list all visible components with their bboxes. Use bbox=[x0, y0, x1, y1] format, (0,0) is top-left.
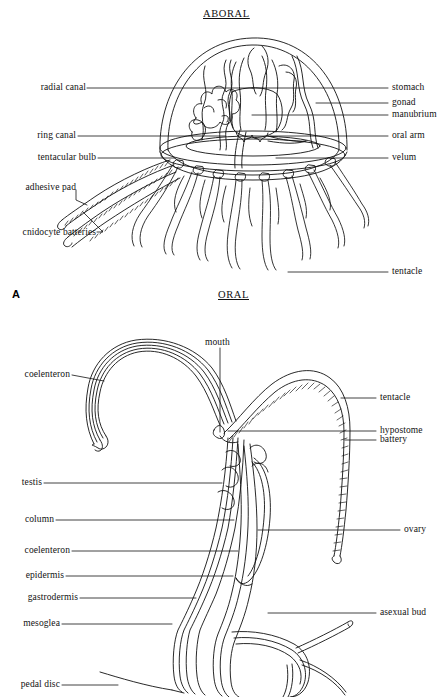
medusa-manubrium bbox=[229, 56, 306, 168]
panelB-leader-lines bbox=[44, 348, 400, 685]
label-battery: battery bbox=[380, 434, 407, 445]
label-epidermis: epidermis bbox=[8, 570, 64, 581]
label-radial-canal: radial canal bbox=[18, 82, 86, 93]
label-testis: testis bbox=[8, 477, 42, 488]
label-oral-arm: oral arm bbox=[392, 130, 425, 141]
label-pedal-disc: pedal disc bbox=[6, 679, 60, 690]
panelA-oral-header: ORAL bbox=[218, 289, 249, 300]
label-tentacle-medusa: tentacle bbox=[392, 266, 422, 277]
label-gonad: gonad bbox=[392, 97, 416, 108]
label-adhesive-pad: adhesive pad bbox=[14, 182, 76, 193]
label-ring-canal: ring canal bbox=[14, 130, 76, 141]
hydra-column bbox=[173, 438, 257, 697]
hydra-asexual-bud bbox=[232, 621, 353, 697]
medusa-bell bbox=[160, 38, 347, 180]
medusa-ring-canal bbox=[161, 139, 345, 171]
figure-root: ABORAL ORAL A radial canal ring canal te… bbox=[0, 0, 444, 697]
label-mouth: mouth bbox=[205, 337, 230, 348]
panelA-aboral-header: ABORAL bbox=[203, 8, 250, 19]
label-mesoglea: mesoglea bbox=[8, 618, 60, 629]
hydra-pedal-disc bbox=[100, 672, 184, 693]
label-coelenteron-tentacle: coelenteron bbox=[8, 369, 70, 380]
label-tentacle-hydra: tentacle bbox=[380, 392, 410, 403]
label-tentacular-bulb: tentacular bulb bbox=[14, 152, 96, 163]
label-asexual-bud: asexual bud bbox=[380, 607, 426, 618]
label-stomach: stomach bbox=[392, 82, 424, 93]
label-velum: velum bbox=[392, 152, 416, 163]
label-column: column bbox=[8, 514, 54, 525]
label-manubrium: manubrium bbox=[392, 109, 437, 120]
label-gastrodermis: gastrodermis bbox=[8, 592, 78, 603]
label-ovary: ovary bbox=[404, 524, 426, 535]
panel-letter-a: A bbox=[12, 288, 20, 300]
medusa-tentacles bbox=[132, 162, 369, 270]
label-coelenteron-column: coelenteron bbox=[8, 545, 70, 556]
label-cnidocyte-batteries: cnidocyte batteries bbox=[4, 227, 96, 238]
